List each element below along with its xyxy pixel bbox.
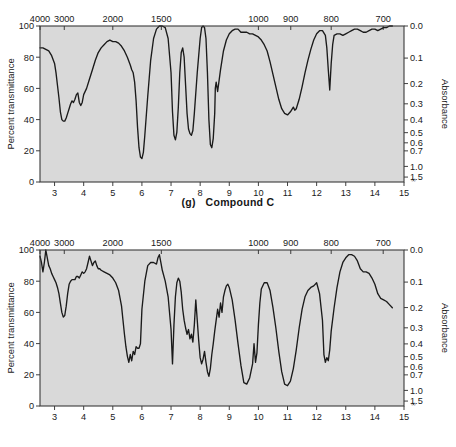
svg-text:80: 80: [24, 53, 34, 63]
caption-prefix-c: (g): [182, 196, 196, 208]
figure-panel-compound-c: 3456789101112131415400030002000150010009…: [0, 0, 456, 218]
left-axis-title: Percent transmittance: [5, 58, 16, 149]
plot-background: [40, 26, 404, 182]
svg-text:2000: 2000: [103, 14, 123, 24]
svg-text:11: 11: [283, 188, 293, 196]
svg-text:100: 100: [19, 21, 34, 31]
svg-text:0.0: 0.0: [410, 21, 423, 31]
svg-text:3: 3: [52, 412, 57, 422]
svg-text:1000: 1000: [248, 238, 268, 248]
svg-text:1500: 1500: [151, 238, 171, 248]
svg-text:10: 10: [253, 412, 263, 422]
svg-text:800: 800: [324, 14, 339, 24]
svg-text:100: 100: [19, 245, 34, 255]
svg-text:0.2: 0.2: [410, 303, 423, 313]
svg-text:40: 40: [24, 339, 34, 349]
svg-text:7: 7: [168, 188, 173, 196]
svg-text:1.0: 1.0: [410, 162, 423, 172]
svg-text:900: 900: [283, 14, 298, 24]
plot-background: [40, 250, 404, 406]
svg-text:6: 6: [139, 412, 144, 422]
svg-text:0.7: 0.7: [410, 146, 423, 156]
svg-text:1500: 1500: [151, 14, 171, 24]
svg-text:12: 12: [312, 412, 322, 422]
svg-text:6: 6: [139, 188, 144, 196]
svg-text:2000: 2000: [103, 238, 123, 248]
svg-text:700: 700: [376, 238, 391, 248]
svg-text:40: 40: [24, 115, 34, 125]
svg-text:60: 60: [24, 84, 34, 94]
svg-text:700: 700: [376, 14, 391, 24]
svg-text:13: 13: [341, 188, 351, 196]
svg-text:3000: 3000: [54, 238, 74, 248]
svg-text:0.0: 0.0: [410, 245, 423, 255]
svg-text:∞: ∞: [411, 400, 416, 408]
svg-text:0.3: 0.3: [410, 323, 423, 333]
svg-text:13: 13: [341, 412, 351, 422]
figure-panel-compound-d: 3456789101112131415400030002000150010009…: [0, 218, 456, 447]
svg-text:11: 11: [283, 412, 293, 422]
svg-text:∞: ∞: [411, 176, 416, 184]
svg-text:14: 14: [370, 412, 380, 422]
svg-text:0.2: 0.2: [410, 79, 423, 89]
svg-text:0.1: 0.1: [410, 53, 423, 63]
svg-text:9: 9: [227, 412, 232, 422]
svg-text:0.1: 0.1: [410, 277, 423, 287]
svg-text:0: 0: [29, 177, 34, 187]
svg-text:1000: 1000: [248, 14, 268, 24]
svg-text:7: 7: [168, 412, 173, 422]
svg-text:0.4: 0.4: [410, 339, 423, 349]
svg-text:15: 15: [399, 188, 409, 196]
svg-text:60: 60: [24, 308, 34, 318]
svg-text:0: 0: [29, 401, 34, 411]
svg-text:800: 800: [324, 238, 339, 248]
svg-text:4: 4: [81, 188, 86, 196]
svg-text:8: 8: [198, 188, 203, 196]
svg-text:10: 10: [253, 188, 263, 196]
svg-text:9: 9: [227, 188, 232, 196]
svg-text:12: 12: [312, 188, 322, 196]
right-axis-title: Absorbance: [440, 79, 451, 129]
figure-caption-c: (g) Compound C: [0, 196, 456, 208]
svg-text:900: 900: [283, 238, 298, 248]
svg-text:14: 14: [370, 188, 380, 196]
caption-label-c: Compound C: [206, 196, 275, 208]
svg-text:20: 20: [24, 146, 34, 156]
svg-text:0.3: 0.3: [410, 99, 423, 109]
plot-area-compound-d: 3456789101112131415400030002000150010009…: [0, 218, 456, 447]
svg-text:0.4: 0.4: [410, 115, 423, 125]
svg-text:0.7: 0.7: [410, 370, 423, 380]
svg-text:8: 8: [198, 412, 203, 422]
svg-text:5: 5: [110, 188, 115, 196]
svg-text:5: 5: [110, 412, 115, 422]
svg-text:20: 20: [24, 370, 34, 380]
ir-spectrum-chart-c: 3456789101112131415400030002000150010009…: [0, 0, 456, 196]
svg-text:3: 3: [52, 188, 57, 196]
right-axis-title: Absorbance: [440, 303, 451, 353]
ir-spectrum-chart-d: 3456789101112131415400030002000150010009…: [0, 218, 456, 423]
svg-text:80: 80: [24, 277, 34, 287]
svg-text:15: 15: [399, 412, 409, 422]
svg-text:3000: 3000: [54, 14, 74, 24]
svg-text:0.5: 0.5: [410, 352, 423, 362]
left-axis-title: Percent transmittance: [5, 282, 16, 373]
svg-text:1.0: 1.0: [410, 386, 423, 396]
svg-text:0.5: 0.5: [410, 128, 423, 138]
plot-area-compound-c: 3456789101112131415400030002000150010009…: [0, 0, 456, 218]
svg-text:4: 4: [81, 412, 86, 422]
